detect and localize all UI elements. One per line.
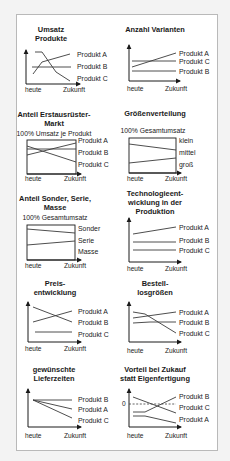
boundary-klein-mittel	[129, 144, 176, 150]
legend-label: Produkt A	[78, 308, 108, 315]
chart-title: Preis-	[45, 279, 66, 288]
trend-line-b	[33, 307, 72, 322]
legend-label: Produkt A	[179, 224, 209, 231]
chart-technologieentwicklung: Technologieent- wicklung in der Produkti…	[127, 189, 210, 272]
chart-title: Vorteil bei Zukauf	[124, 365, 186, 374]
x-start-label: heute	[127, 85, 144, 92]
x-start-label: heute	[127, 347, 144, 354]
x-end-label: Zukunft	[165, 85, 187, 92]
chart-title: Bestell-	[142, 279, 169, 288]
boundary-serie-masse	[27, 241, 75, 245]
trend-line-a	[33, 400, 72, 409]
x-start-label: heute	[25, 86, 42, 93]
chart-title: gewünschte	[33, 365, 76, 374]
chart-lieferzeiten: gewünschte Lieferzeiten Produkt B Produk…	[25, 365, 109, 439]
chart-title: Anzahl Varianten	[125, 25, 185, 34]
legend-label: Produkt A	[179, 416, 209, 423]
legend-label: Produkt A	[77, 51, 107, 58]
boundary-sonder-serie	[27, 229, 75, 233]
chart-vorteil-zukauf: Vorteil bei Zukauf statt Eigenfertigung …	[120, 365, 210, 439]
x-end-label: Zukunft	[64, 262, 86, 269]
legend-label: Produkt A	[78, 406, 108, 413]
legend-label: Produkt B	[78, 319, 109, 326]
trend-line-a	[132, 53, 176, 67]
legend-label: mittel	[179, 149, 196, 156]
trend-line-a	[133, 416, 176, 423]
trend-line-c	[133, 397, 176, 413]
chart-title: wicklung in der	[127, 198, 182, 207]
share-box	[27, 225, 75, 260]
x-end-label: Zukunft	[64, 345, 86, 352]
legend-label: Produkt C	[78, 331, 109, 338]
legend-label: Serie	[78, 237, 94, 244]
legend-label: Produkt C	[77, 75, 108, 82]
chart-title: Technologieent-	[127, 189, 184, 198]
legend-label: Produkt B	[78, 149, 109, 156]
legend-label: Produkt C	[78, 417, 109, 424]
zero-label: 0	[122, 400, 126, 407]
chart-title: Produkte	[35, 34, 67, 43]
legend-label: Produkt A	[78, 137, 108, 144]
chart-title: Anteil Erstausrüster-	[17, 110, 91, 119]
chart-title: Umsatz	[38, 25, 65, 34]
chart-title: Lieferzeiten	[33, 374, 75, 383]
x-start-label: heute	[127, 265, 144, 272]
chart-title: Markt	[44, 119, 64, 128]
x-end-label: Zukunft	[165, 347, 187, 354]
x-end-label: Zukunft	[63, 86, 85, 93]
legend-label: Produkt C	[179, 58, 210, 65]
legend-label: Sonder	[78, 225, 101, 232]
x-start-label: heute	[25, 262, 42, 269]
x-end-label: Zukunft	[165, 432, 187, 439]
legend-label: Produkt B	[179, 237, 210, 244]
chart-preisentwicklung: Preis- entwicklung Produkt A Produkt B P…	[25, 279, 109, 352]
legend-label: Produkt B	[78, 396, 109, 403]
trend-line-a	[133, 227, 176, 234]
chart-anteil-erstausruester: Anteil Erstausrüster- Markt 100% Umsatz …	[17, 110, 109, 182]
legend-label: Produkt B	[179, 68, 210, 75]
chart-groessenverteilung: Größenverteilung 100% Gesamtumsatz klein…	[121, 109, 196, 182]
x-end-label: Zukunft	[165, 175, 187, 182]
chart-title: Produktion	[135, 207, 174, 216]
chart-anzahl-varianten: Anzahl Varianten Produkt A Produkt C Pro…	[125, 25, 209, 92]
x-start-label: heute	[127, 432, 144, 439]
chart-title: Masse	[44, 203, 67, 212]
x-end-label: Zukunft	[64, 432, 86, 439]
chart-title: Anteil Sonder, Serie,	[19, 194, 91, 203]
x-start-label: heute	[127, 175, 144, 182]
legend-label: klein	[179, 137, 193, 144]
legend-label: Produkt B	[77, 63, 108, 70]
chart-title: Größenverteilung	[124, 109, 186, 118]
x-start-label: heute	[25, 345, 42, 352]
trend-line-c	[27, 146, 76, 162]
trend-line-c	[35, 52, 70, 81]
legend-label: Produkt C	[179, 330, 210, 337]
legend-label: Produkt C	[78, 161, 109, 168]
legend-label: groß	[179, 161, 193, 169]
legend-label: Produkt A	[179, 50, 209, 57]
chart-title: entwicklung	[34, 288, 77, 297]
chart-bestelllosgroessen: Bestell- losgrößen Produkt A Produkt B P…	[127, 279, 210, 354]
trend-diagrams: Umsatz Produkte Produkt A Produkt B Prod…	[0, 0, 230, 461]
legend-label: Produkt C	[179, 404, 210, 411]
chart-subtitle: 100% Gesamtumsatz	[23, 214, 89, 221]
x-start-label: heute	[25, 175, 42, 182]
trend-line-c	[33, 400, 72, 418]
legend-label: Masse	[78, 248, 98, 255]
x-end-label: Zukunft	[64, 175, 86, 182]
x-end-label: Zukunft	[165, 265, 187, 272]
trend-line-b	[133, 322, 176, 323]
legend-label: Produkt A	[179, 309, 209, 316]
chart-title: losgrößen	[137, 288, 173, 297]
trend-line-a	[33, 54, 70, 74]
legend-label: Produkt C	[179, 247, 210, 254]
chart-subtitle: 100% Gesamtumsatz	[121, 127, 187, 134]
boundary-mittel-gross	[129, 158, 176, 163]
legend-label: Produkt B	[179, 393, 210, 400]
x-start-label: heute	[25, 432, 42, 439]
share-box	[129, 138, 176, 173]
chart-anteil-sonder-serie-masse: Anteil Sonder, Serie, Masse 100% Gesamtu…	[19, 194, 101, 269]
chart-umsatz-produkte: Umsatz Produkte Produkt A Produkt B Prod…	[25, 25, 108, 93]
trend-line-a	[33, 311, 72, 322]
legend-label: Produkt B	[179, 319, 210, 326]
